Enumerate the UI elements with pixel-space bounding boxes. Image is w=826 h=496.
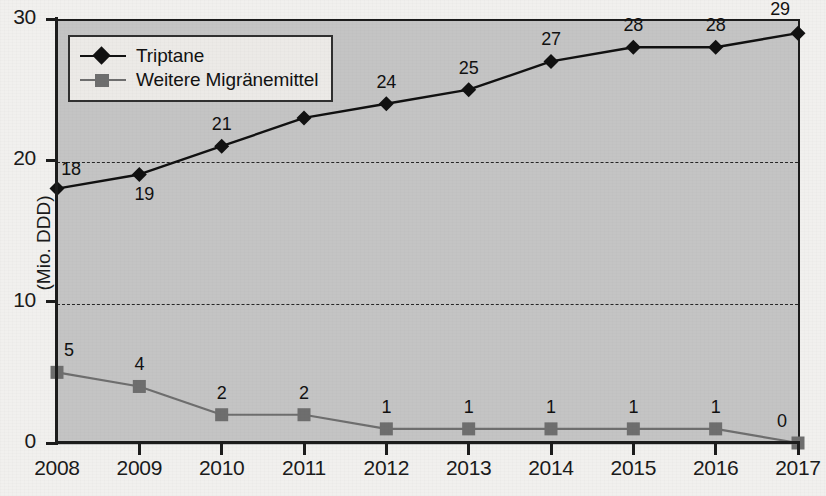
series-line-2	[57, 372, 798, 443]
data-label: 4	[134, 354, 144, 375]
x-tick-mark	[550, 444, 553, 455]
marker-diamond	[791, 26, 806, 41]
marker-diamond	[214, 139, 229, 154]
data-label: 28	[624, 15, 644, 36]
y-axis-line	[55, 17, 58, 445]
marker-square	[545, 422, 558, 435]
marker-diamond	[132, 167, 147, 182]
y-axis-title: (Mio. DDD)	[33, 163, 55, 323]
x-axis-line	[55, 441, 800, 444]
marker-square	[627, 422, 640, 435]
data-label: 1	[546, 397, 556, 418]
x-tick-label: 2009	[117, 456, 163, 480]
marker-diamond	[461, 82, 476, 97]
x-tick-label: 2016	[693, 456, 739, 480]
marker-diamond	[297, 110, 312, 125]
x-tick-mark	[632, 444, 635, 455]
y-tick-mark	[46, 18, 57, 21]
legend-swatch-diamond-icon	[80, 46, 126, 66]
data-label: 2	[299, 383, 309, 404]
y-tick-label: 0	[25, 429, 36, 453]
x-tick-label: 2011	[282, 456, 326, 480]
data-label: 19	[135, 184, 155, 205]
marker-diamond	[379, 96, 394, 111]
data-label: 1	[381, 397, 391, 418]
data-label: 18	[61, 159, 81, 180]
marker-square	[215, 408, 228, 421]
y-tick-mark	[46, 159, 57, 162]
legend-label-weitere-migraenemittel: Weitere Migränemittel	[136, 69, 318, 91]
legend-item-triptane: Triptane	[80, 44, 318, 68]
x-tick-label: 2014	[528, 456, 574, 480]
chart-legend: Triptane Weitere Migränemittel	[68, 35, 333, 102]
x-tick-mark	[714, 444, 717, 455]
x-tick-mark	[797, 444, 800, 455]
marker-square	[380, 422, 393, 435]
data-label: 29	[770, 0, 790, 20]
x-tick-mark	[138, 444, 141, 455]
marker-diamond	[708, 40, 723, 55]
x-tick-mark	[467, 444, 470, 455]
x-tick-label: 2015	[611, 456, 657, 480]
legend-label-triptane: Triptane	[136, 45, 204, 67]
marker-diamond	[626, 40, 641, 55]
x-tick-label: 2012	[364, 456, 410, 480]
y-tick-mark	[46, 442, 57, 445]
data-label: 2	[217, 383, 227, 404]
x-tick-mark	[220, 444, 223, 455]
data-label: 25	[459, 58, 479, 79]
x-tick-label: 2008	[34, 456, 80, 480]
x-tick-label: 2013	[446, 456, 492, 480]
marker-square	[709, 422, 722, 435]
x-tick-label: 2017	[775, 456, 821, 480]
data-label: 21	[212, 114, 232, 135]
marker-square	[462, 422, 475, 435]
data-label: 1	[464, 397, 474, 418]
data-label: 27	[541, 29, 561, 50]
data-label: 5	[64, 340, 74, 361]
data-label: 1	[628, 397, 638, 418]
migraine-medication-line-chart: 0102030 20082009201020112012201320142015…	[0, 0, 826, 496]
marker-square	[133, 380, 146, 393]
marker-diamond	[544, 54, 559, 69]
x-tick-label: 2010	[199, 456, 245, 480]
y-tick-label: 30	[13, 5, 36, 29]
marker-square	[298, 408, 311, 421]
x-tick-mark	[385, 444, 388, 455]
data-label: 1	[711, 397, 721, 418]
data-label: 24	[377, 72, 397, 93]
data-label: 0	[777, 411, 787, 432]
x-tick-mark	[303, 444, 306, 455]
legend-item-weitere-migraenemittel: Weitere Migränemittel	[80, 68, 318, 92]
data-label: 28	[706, 15, 726, 36]
legend-swatch-square-icon	[80, 70, 126, 90]
